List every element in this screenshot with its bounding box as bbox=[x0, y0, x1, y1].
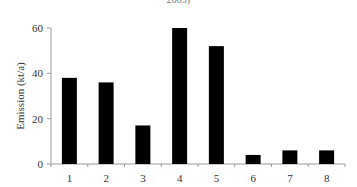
x-tick-label: 7 bbox=[287, 172, 293, 184]
axes: 020406012345678 bbox=[32, 22, 345, 184]
y-tick-label: 0 bbox=[38, 158, 44, 170]
bar-7 bbox=[282, 150, 297, 164]
bar-chart: 020406012345678 Emission (kt/a) bbox=[0, 0, 357, 187]
x-tick-label: 4 bbox=[177, 172, 183, 184]
bar-1 bbox=[62, 78, 77, 164]
x-tick-label: 6 bbox=[250, 172, 256, 184]
y-tick-label: 40 bbox=[32, 67, 44, 79]
bars bbox=[62, 28, 334, 164]
x-tick-label: 1 bbox=[67, 172, 73, 184]
y-axis-label: Emission (kt/a) bbox=[14, 62, 27, 130]
bar-3 bbox=[135, 125, 150, 164]
y-tick-label: 60 bbox=[32, 22, 44, 34]
y-tick-label: 20 bbox=[32, 113, 44, 125]
x-tick-label: 3 bbox=[140, 172, 146, 184]
bar-2 bbox=[99, 82, 114, 164]
bar-5 bbox=[209, 46, 224, 164]
x-tick-label: 2 bbox=[103, 172, 109, 184]
bar-6 bbox=[246, 155, 261, 164]
bar-4 bbox=[172, 28, 187, 164]
bar-8 bbox=[319, 150, 334, 164]
x-tick-label: 5 bbox=[214, 172, 220, 184]
x-tick-label: 8 bbox=[324, 172, 330, 184]
